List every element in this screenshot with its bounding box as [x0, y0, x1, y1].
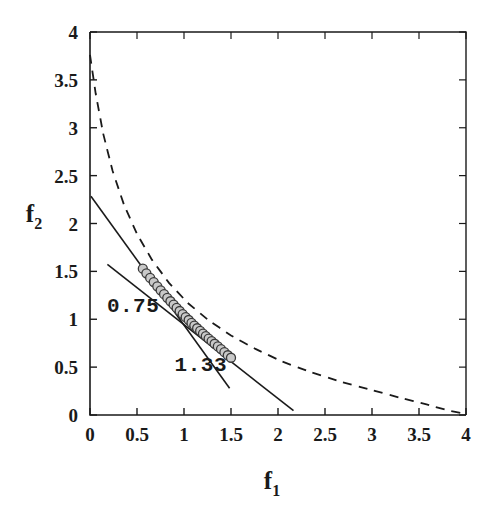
y-tick-label: 4 [69, 22, 79, 43]
svg-text:f1: f1 [264, 467, 280, 499]
x-tick-label: 2.5 [313, 424, 337, 445]
x-tick-label: 1 [179, 424, 189, 445]
dashed-reference-curve [90, 55, 466, 414]
y-tick-label: 2.5 [54, 166, 78, 187]
y-tick-label: 0.5 [54, 357, 78, 378]
y-tick-label: 2 [69, 214, 79, 235]
y-tick-label: 1 [69, 309, 79, 330]
svg-text:f2: f2 [26, 200, 42, 232]
x-axis-title: f1 [264, 467, 280, 499]
data-point-marker [227, 353, 236, 362]
y-tick-label: 3.5 [54, 70, 78, 91]
axes-spines-left-bottom [90, 32, 466, 415]
x-tick-label: 2 [273, 424, 283, 445]
slope-label-1.33: 1.33 [175, 354, 227, 377]
x-tick-label: 1.5 [219, 424, 243, 445]
y-tick-label: 0 [69, 405, 79, 426]
x-tick-label: 4 [461, 424, 471, 445]
y-axis-title: f2 [26, 200, 42, 232]
x-tick-label: 0 [85, 424, 95, 445]
x-tick-label: 3 [367, 424, 377, 445]
y-tick-label: 3 [69, 118, 79, 139]
slope-label-0.75: 0.75 [107, 295, 159, 318]
pareto-front-chart: 00.511.522.533.5400.511.522.533.540.751.… [0, 0, 487, 518]
y-tick-label: 1.5 [54, 261, 78, 282]
x-tick-label: 0.5 [125, 424, 149, 445]
figure-root: 00.511.522.533.5400.511.522.533.540.751.… [0, 0, 487, 518]
axes-spines-top-right [90, 32, 466, 415]
x-tick-label: 3.5 [407, 424, 431, 445]
